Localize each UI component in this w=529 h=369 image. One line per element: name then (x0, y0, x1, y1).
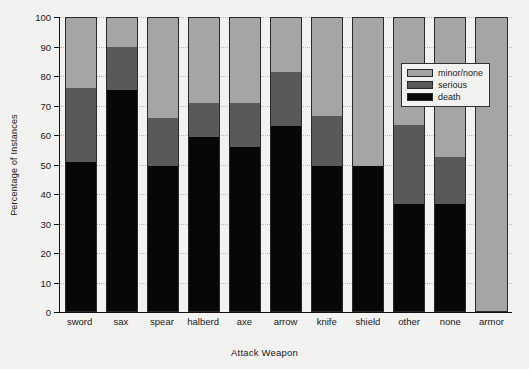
y-axis-tick-label: 80 (40, 71, 51, 82)
y-axis-tick-label: 0 (46, 307, 51, 318)
y-axis-tick-label: 10 (40, 277, 51, 288)
bar-slot (348, 17, 389, 312)
bar-slot (183, 17, 224, 312)
bar-segment-serious (312, 116, 342, 166)
chart-figure: Percentage of Instances 0102030405060708… (0, 0, 529, 369)
stacked-bar[interactable] (393, 17, 425, 312)
stacked-bar[interactable] (188, 17, 220, 312)
x-axis-tick-label-sword: sword (59, 316, 100, 327)
x-axis-tick-labels: swordsaxspearhalberdaxearrowknifeshieldo… (59, 316, 512, 327)
bar-segment-minor-none (476, 18, 506, 311)
bar-segment-minor-none (189, 18, 219, 103)
bar-slot (471, 17, 512, 312)
bar-slot (430, 17, 471, 312)
bar-segment-serious (394, 125, 424, 204)
bar-segment-minor-none (271, 18, 301, 72)
legend-swatch-icon (407, 81, 433, 89)
bar-slot (101, 17, 142, 312)
bar-slot (142, 17, 183, 312)
x-axis-tick-label-other: other (389, 316, 430, 327)
x-axis-tick-label-halberd: halberd (183, 316, 224, 327)
bar-segment-death (148, 166, 178, 311)
x-axis-tick-label-knife: knife (306, 316, 347, 327)
bar-slot (389, 17, 430, 312)
plot-area: 0102030405060708090100 (59, 17, 512, 313)
bar-segment-minor-none (148, 18, 178, 118)
bar-segment-death (271, 126, 301, 311)
bar-slot (224, 17, 265, 312)
y-axis-tick-label: 50 (40, 159, 51, 170)
y-axis-title: Percentage of Instances (9, 65, 19, 265)
chart-legend: minor/noneseriousdeath (401, 63, 490, 107)
y-axis-tick-label: 70 (40, 100, 51, 111)
bar-segment-serious (189, 103, 219, 137)
stacked-bar[interactable] (434, 17, 466, 312)
stacked-bar[interactable] (352, 17, 384, 312)
stacked-bar[interactable] (270, 17, 302, 312)
legend-swatch-icon (407, 93, 433, 101)
y-axis-tick-label: 60 (40, 130, 51, 141)
bar-segment-serious (148, 118, 178, 166)
legend-entry-death[interactable]: death (407, 92, 483, 102)
legend-label: death (438, 92, 461, 102)
stacked-bar[interactable] (65, 17, 97, 312)
bar-segment-death (312, 166, 342, 311)
legend-label: serious (438, 80, 467, 90)
bar-segment-death (435, 204, 465, 311)
x-axis-tick-label-arrow: arrow (265, 316, 306, 327)
bar-slot (60, 17, 101, 312)
x-axis-tick-label-armor: armor (471, 316, 512, 327)
bar-segment-death (66, 162, 96, 311)
bar-segment-death (230, 147, 260, 311)
y-axis-tick-label: 90 (40, 41, 51, 52)
legend-swatch-icon (407, 69, 433, 77)
bar-slot (307, 17, 348, 312)
bar-segment-death (189, 137, 219, 311)
stacked-bar[interactable] (311, 17, 343, 312)
y-axis-tick-label: 20 (40, 248, 51, 259)
bar-segment-minor-none (107, 18, 137, 47)
x-axis-title: Attack Weapon (0, 347, 529, 358)
bar-segment-minor-none (353, 18, 383, 166)
x-axis-tick-label-axe: axe (224, 316, 265, 327)
legend-label: minor/none (438, 68, 483, 78)
bar-slot (265, 17, 306, 312)
bar-segment-minor-none (312, 18, 342, 116)
bar-segment-serious (107, 47, 137, 89)
bar-segment-minor-none (230, 18, 260, 103)
legend-entry-serious[interactable]: serious (407, 80, 483, 90)
y-axis-tick-label: 30 (40, 218, 51, 229)
stacked-bar[interactable] (106, 17, 138, 312)
bar-segment-minor-none (66, 18, 96, 88)
bars-group (60, 17, 512, 312)
bar-segment-death (107, 90, 137, 311)
bar-segment-death (353, 166, 383, 311)
y-axis-tick (54, 312, 60, 313)
stacked-bar[interactable] (475, 17, 507, 312)
stacked-bar[interactable] (229, 17, 261, 312)
bar-segment-serious (271, 72, 301, 126)
legend-entry-minor-none[interactable]: minor/none (407, 68, 483, 78)
y-axis-tick-label: 40 (40, 189, 51, 200)
bar-segment-death (394, 204, 424, 311)
x-axis-tick-label-none: none (430, 316, 471, 327)
bar-segment-serious (435, 157, 465, 204)
stacked-bar[interactable] (147, 17, 179, 312)
bar-segment-serious (66, 88, 96, 161)
x-axis-tick-label-spear: spear (141, 316, 182, 327)
x-axis-tick-label-sax: sax (100, 316, 141, 327)
y-axis-tick-label: 100 (35, 12, 51, 23)
bar-segment-serious (230, 103, 260, 147)
x-axis-tick-label-shield: shield (347, 316, 388, 327)
